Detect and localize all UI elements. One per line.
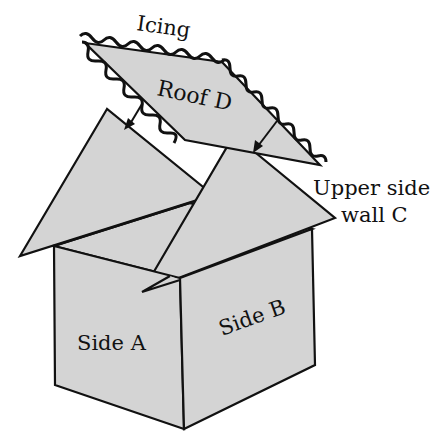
label-side-a: Side A xyxy=(77,331,147,355)
label-upper-wall-1: Upper side xyxy=(313,176,430,200)
arrow-left-shaft xyxy=(130,104,142,124)
label-icing: Icing xyxy=(135,11,192,42)
house-diagram: Icing Roof D Upper side wall C Side A Si… xyxy=(0,0,441,445)
label-upper-wall-2: wall C xyxy=(341,203,408,227)
